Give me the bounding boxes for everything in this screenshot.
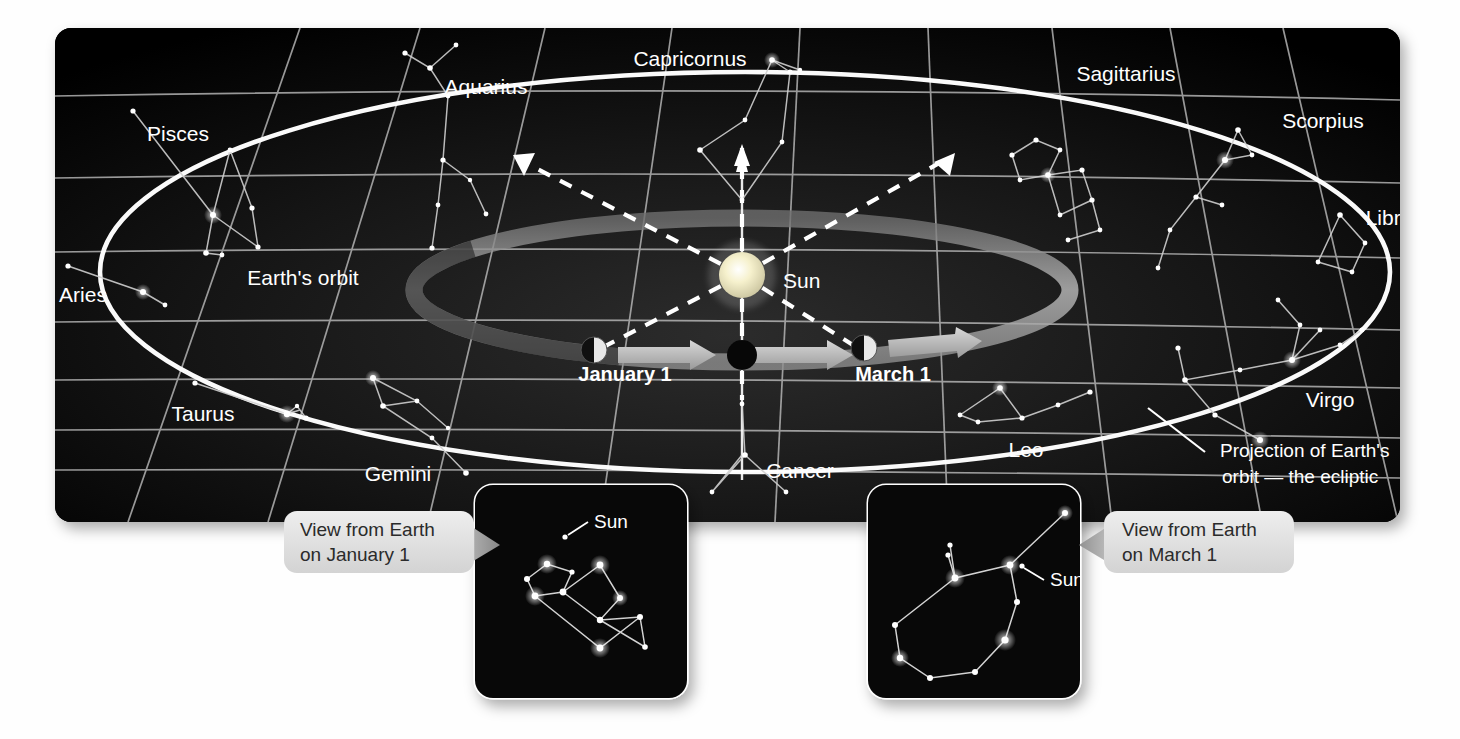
inset-january[interactable]: Sun (475, 485, 687, 698)
earth-january (581, 337, 607, 363)
label-ecliptic-l1: Projection of Earth's (1220, 440, 1389, 461)
label-january-1: January 1 (578, 363, 671, 385)
inset-march-sun-dot (1019, 563, 1024, 568)
inset-march[interactable]: Sun (868, 485, 1084, 698)
earth-march (851, 335, 877, 361)
main-diagram: Pisces Aquarius Capricornus Sagittarius … (0, 0, 1460, 739)
label-earths-orbit: Earth's orbit (247, 266, 359, 289)
label-virgo: Virgo (1306, 388, 1355, 411)
label-cancer: Cancer (766, 459, 834, 482)
label-ecliptic-l2: orbit — the ecliptic (1222, 466, 1378, 487)
label-capricornus: Capricornus (633, 47, 746, 70)
callout-january-line2: on January 1 (300, 544, 410, 565)
inset-january-sun-label: Sun (594, 511, 628, 532)
label-libra: Libra (1366, 206, 1413, 229)
callout-january-line1: View from Earth (300, 519, 435, 540)
callout-march-line2: on March 1 (1122, 544, 1217, 565)
label-pisces: Pisces (147, 122, 209, 145)
label-march-1: March 1 (855, 363, 931, 385)
label-sun: Sun (783, 269, 820, 292)
figure-stage: Pisces Aquarius Capricornus Sagittarius … (0, 0, 1460, 739)
label-taurus: Taurus (171, 402, 234, 425)
inset-march-sun-label: Sun (1050, 569, 1084, 590)
label-aquarius: Aquarius (445, 75, 528, 98)
label-sagittarius: Sagittarius (1076, 62, 1175, 85)
label-leo: Leo (1008, 438, 1043, 461)
sun-body (708, 241, 776, 309)
inset-january-sun-dot (562, 534, 567, 539)
label-aries: Aries (59, 283, 107, 306)
callout-january: View from Earth on January 1 (284, 511, 500, 573)
label-scorpius: Scorpius (1282, 109, 1364, 132)
earth-center-marker (727, 340, 757, 370)
callout-march-line1: View from Earth (1122, 519, 1257, 540)
callout-march: View from Earth on March 1 (1079, 511, 1294, 573)
label-gemini: Gemini (365, 462, 432, 485)
